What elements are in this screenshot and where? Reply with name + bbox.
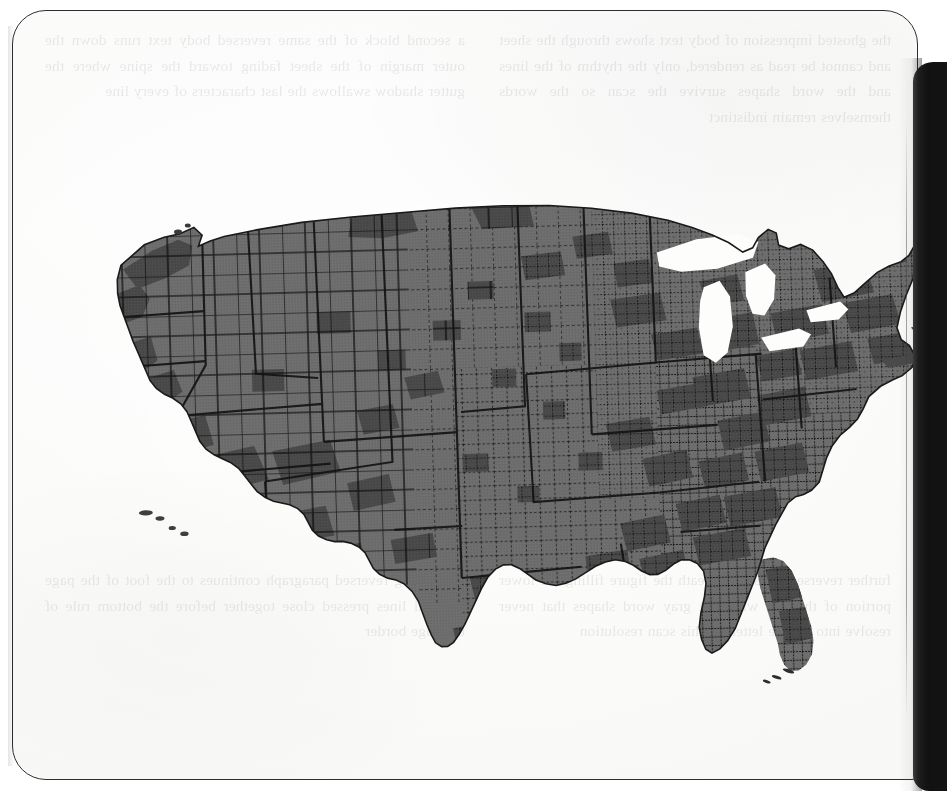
map-svg <box>57 107 918 695</box>
national-outline <box>116 194 918 669</box>
florida-peninsula <box>751 548 835 690</box>
florida-keys <box>762 667 795 684</box>
ghost-text-column-b: a second block of the same reversed body… <box>45 27 465 104</box>
gutter-hairline <box>906 120 907 720</box>
book-gutter-shadow <box>913 62 947 791</box>
page-sheet: the ghosted impression of body text show… <box>12 10 918 780</box>
bleed-through-text-layer: the ghosted impression of body text show… <box>13 11 917 779</box>
paper-grain <box>13 11 917 779</box>
map-landmass <box>57 107 918 695</box>
state-boundaries <box>112 197 862 588</box>
dark-shade-counties <box>114 195 918 661</box>
great-lakes <box>656 231 849 364</box>
ghost-text-column-d: the closing reversed paragraph continues… <box>45 567 465 644</box>
channel-islands <box>139 509 189 537</box>
ghost-running-head: reversed running head <box>165 249 465 265</box>
puget-sound-islands <box>174 223 191 234</box>
us-county-choropleth-map <box>57 107 918 695</box>
map-plate <box>57 107 918 695</box>
ghost-text-column-c: further reversed lines sit beneath the f… <box>499 567 891 644</box>
ghost-text-column-a: the ghosted impression of body text show… <box>499 27 891 129</box>
